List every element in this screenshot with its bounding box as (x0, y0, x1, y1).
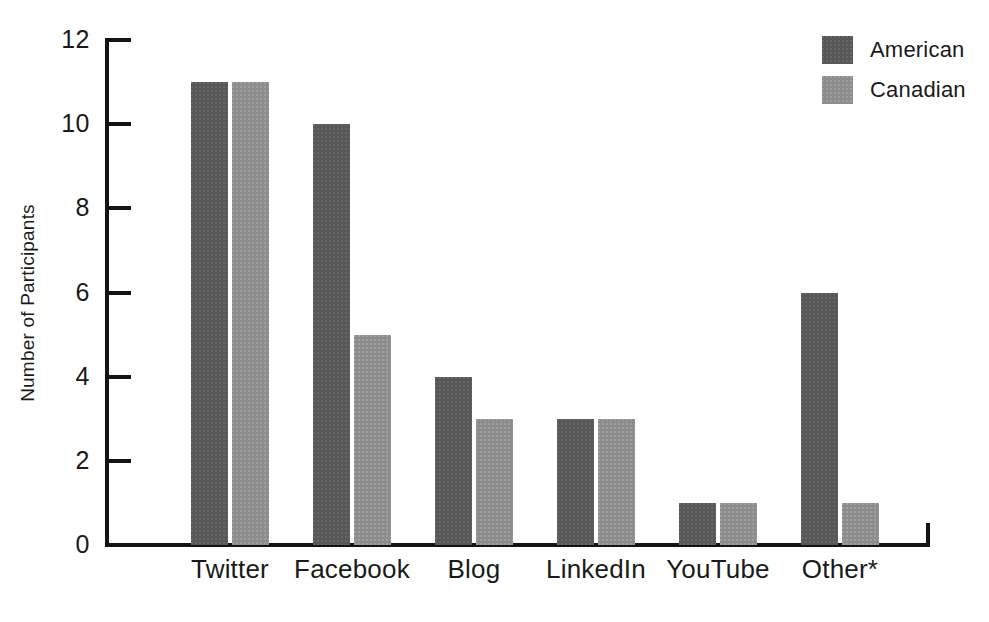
legend-label: American (870, 37, 965, 63)
bar-chart-figure: 024681012 Number of Participants Twitter… (0, 0, 989, 622)
bar (679, 503, 716, 545)
y-axis-tick-label: 10 (44, 111, 90, 136)
bar (476, 419, 513, 545)
bar-fill (191, 82, 228, 545)
y-axis-tick-label: 4 (44, 364, 90, 389)
legend-item: American (822, 30, 966, 70)
bar (720, 503, 757, 545)
y-axis-title: Number of Participants (17, 103, 39, 503)
legend-swatch (822, 36, 853, 64)
bar-fill (232, 82, 269, 545)
bar (842, 503, 879, 545)
bar-group (801, 40, 879, 545)
bar-group (313, 40, 391, 545)
legend-swatch (822, 76, 853, 104)
y-axis-tick-labels: 024681012 (44, 0, 90, 622)
bar (801, 293, 838, 546)
legend-label: Canadian (870, 77, 966, 103)
legend-item: Canadian (822, 70, 966, 110)
bar (598, 419, 635, 545)
plot-area (108, 40, 928, 545)
x-axis-tick-label: Other* (750, 555, 930, 584)
bar (557, 419, 594, 545)
bar (354, 335, 391, 545)
bar-fill (598, 419, 635, 545)
bar-fill (842, 503, 879, 545)
bar-group (679, 40, 757, 545)
bar-fill (801, 293, 838, 546)
bar-group (191, 40, 269, 545)
bar (232, 82, 269, 545)
y-axis-tick-label: 6 (44, 280, 90, 305)
bar-fill (720, 503, 757, 545)
bar (313, 124, 350, 545)
bar (191, 82, 228, 545)
bar-group (435, 40, 513, 545)
y-axis-tick-label: 12 (44, 27, 90, 52)
bar-fill (435, 377, 472, 545)
y-axis-tick-label: 2 (44, 448, 90, 473)
bar-fill (313, 124, 350, 545)
y-axis-tick-label: 8 (44, 195, 90, 220)
bar-fill (557, 419, 594, 545)
chart-legend: AmericanCanadian (822, 30, 966, 110)
bar-fill (679, 503, 716, 545)
bar-group (557, 40, 635, 545)
bar (435, 377, 472, 545)
y-axis-tick-label: 0 (44, 532, 90, 557)
bar-fill (354, 335, 391, 545)
bar-fill (476, 419, 513, 545)
